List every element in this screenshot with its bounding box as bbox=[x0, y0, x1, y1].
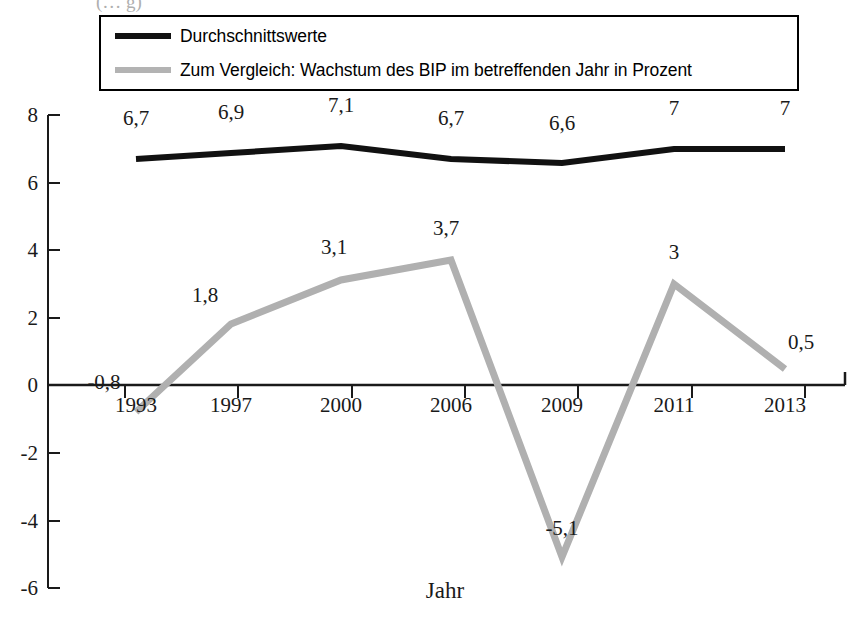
data-label-durchschnitt-2000: 7,1 bbox=[301, 93, 381, 118]
y-tick-label-neg6: -6 bbox=[0, 576, 38, 601]
data-label-bip-1993: -0,8 bbox=[64, 370, 144, 395]
y-tick-label-8: 8 bbox=[0, 103, 38, 128]
data-label-bip-2006: 3,7 bbox=[406, 216, 486, 241]
plot-area bbox=[0, 0, 858, 625]
x-axis-title: Jahr bbox=[345, 578, 545, 604]
data-label-durchschnitt-1993: 6,7 bbox=[96, 106, 176, 131]
data-label-bip-2000: 3,1 bbox=[294, 235, 374, 260]
x-tick-label-2009: 2009 bbox=[514, 393, 610, 418]
y-tick-marks bbox=[48, 183, 62, 521]
x-tick-label-2013: 2013 bbox=[737, 393, 833, 418]
data-label-bip-1997: 1,8 bbox=[165, 283, 245, 308]
data-label-bip-2009: -5,1 bbox=[522, 516, 602, 541]
data-label-durchschnitt-2006: 6,7 bbox=[411, 106, 491, 131]
y-tick-label-2: 2 bbox=[0, 306, 38, 331]
data-label-durchschnitt-2009: 6,6 bbox=[522, 111, 602, 136]
chart-container: (… g) Durchschnittswerte Zum Vergleich: … bbox=[0, 0, 858, 625]
y-tick-label-neg2: -2 bbox=[0, 441, 38, 466]
x-tick-label-2000: 2000 bbox=[293, 393, 389, 418]
data-label-bip-2011: 3 bbox=[634, 240, 714, 265]
series-line-durchschnittswerte bbox=[136, 146, 785, 163]
x-tick-label-1993: 1993 bbox=[88, 393, 184, 418]
y-axis-line bbox=[48, 115, 60, 588]
data-label-durchschnitt-1997: 6,9 bbox=[191, 100, 271, 125]
x-tick-label-1997: 1997 bbox=[183, 393, 279, 418]
y-tick-label-0: 0 bbox=[0, 373, 38, 398]
y-tick-label-neg4: -4 bbox=[0, 509, 38, 534]
data-label-durchschnitt-2011: 7 bbox=[634, 96, 714, 121]
y-tick-label-4: 4 bbox=[0, 238, 38, 263]
data-label-durchschnitt-2013: 7 bbox=[745, 96, 825, 121]
y-tick-label-6: 6 bbox=[0, 171, 38, 196]
data-label-bip-2013: 0,5 bbox=[761, 330, 841, 355]
x-tick-label-2011: 2011 bbox=[626, 393, 722, 418]
x-tick-label-2006: 2006 bbox=[403, 393, 499, 418]
